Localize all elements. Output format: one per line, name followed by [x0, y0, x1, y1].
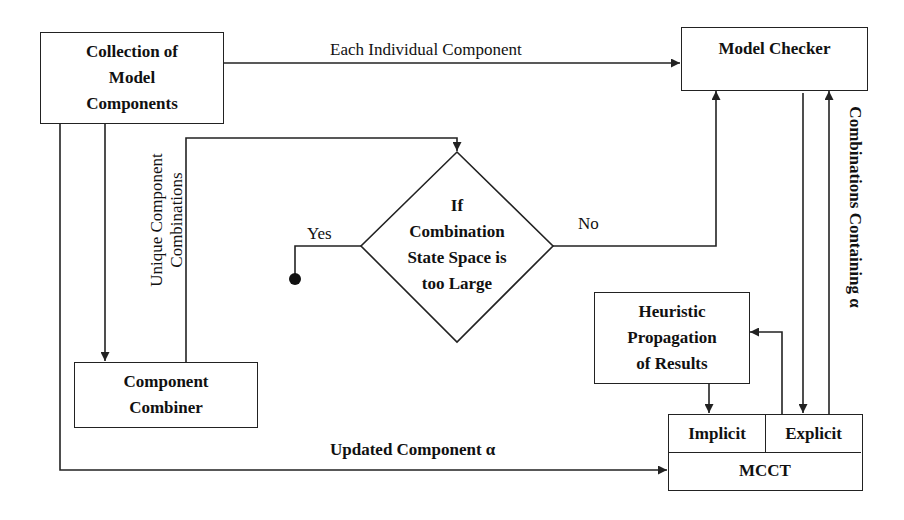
edge-label-unique-combinations: Unique Component Combinations [147, 140, 187, 300]
edge-label-each-individual: Each Individual Component [330, 40, 522, 60]
edge-label-text: Combinations Containing α [846, 106, 865, 307]
edge-label-line: Unique Component [147, 140, 167, 300]
node-label: Model Checker [719, 36, 831, 62]
node-label-line: of Results [636, 351, 707, 377]
mcct-implicit-cell[interactable]: Implicit [669, 415, 766, 453]
node-label-line: Collection of [86, 39, 178, 65]
edge-explicit-to-heuristic [750, 332, 782, 414]
node-collection-of-model-components[interactable]: Collection of Model Components [40, 32, 224, 124]
node-mcct[interactable]: Implicit Explicit MCCT [668, 414, 863, 491]
mcct-explicit-cell[interactable]: Explicit [766, 415, 861, 453]
decision-label-line: If [377, 193, 537, 219]
node-label-line: Propagation [627, 325, 716, 351]
node-label-line: Combiner [129, 395, 203, 421]
edge-label-updated-component: Updated Component α [330, 440, 495, 460]
decision-label-line: too Large [377, 271, 537, 297]
node-label-line: Model [109, 65, 155, 91]
decision-label-line: Combination [377, 219, 537, 245]
edge-label-combinations-containing: Combinations Containing α [845, 92, 865, 322]
mcct-implicit-label: Implicit [688, 424, 746, 444]
mcct-label: MCCT [739, 461, 791, 481]
edge-label-yes: Yes [307, 224, 332, 244]
node-model-checker[interactable]: Model Checker [681, 27, 868, 91]
decision-label: If Combination State Space is too Large [377, 193, 537, 297]
node-label-line: Components [86, 91, 178, 117]
node-label-line: Component [123, 369, 208, 395]
edge-label-no: No [578, 214, 599, 234]
node-component-combiner[interactable]: Component Combiner [74, 362, 258, 428]
edge-label-line: Combinations [167, 140, 187, 300]
decision-label-line: State Space is [377, 245, 537, 271]
mcct-title-cell: MCCT [669, 453, 861, 489]
terminal-dot [289, 273, 301, 285]
mcct-explicit-label: Explicit [785, 424, 842, 444]
node-label-line: Heuristic [638, 299, 705, 325]
node-heuristic-propagation[interactable]: Heuristic Propagation of Results [594, 292, 750, 384]
edge-yes [295, 246, 361, 279]
